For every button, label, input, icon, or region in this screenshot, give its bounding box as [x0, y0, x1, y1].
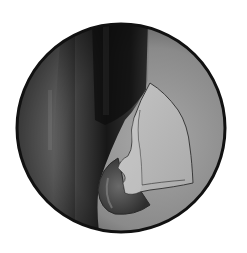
- scope-illustration: [0, 0, 247, 253]
- scope-field: [0, 0, 247, 253]
- scope-view-graphic: [0, 0, 247, 253]
